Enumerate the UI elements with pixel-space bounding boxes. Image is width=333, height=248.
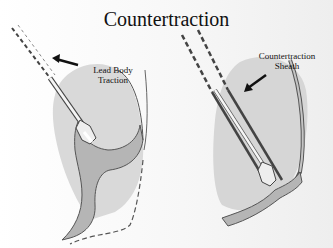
label-line-2: Traction bbox=[88, 75, 138, 85]
countertraction-sheath-label: Countertraction Sheath bbox=[252, 51, 322, 71]
lead-body-traction-label: Lead Body Traction bbox=[88, 65, 138, 85]
label-line-2: Sheath bbox=[252, 61, 322, 71]
left-panel-illustration bbox=[12, 25, 147, 244]
countertraction-diagram bbox=[0, 0, 333, 248]
slide: Countertraction bbox=[0, 0, 333, 248]
label-line-1: Lead Body bbox=[88, 65, 138, 75]
label-line-1: Countertraction bbox=[252, 51, 322, 61]
